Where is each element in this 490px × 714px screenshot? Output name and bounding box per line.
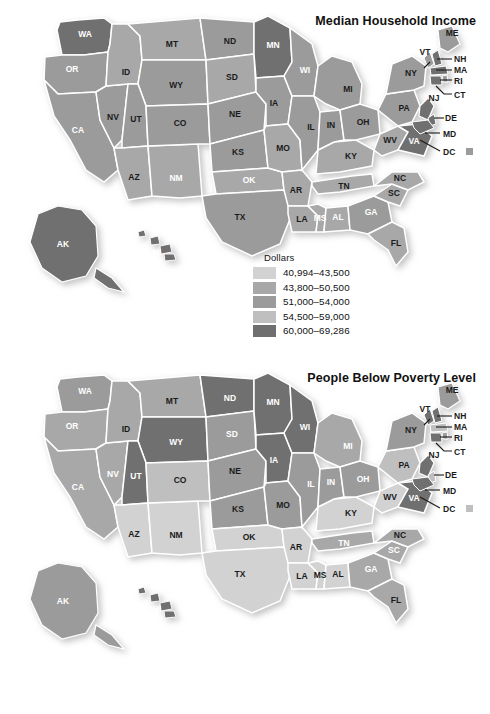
state-AK <box>30 563 124 649</box>
state-NM <box>148 144 202 198</box>
state-MI <box>314 56 362 110</box>
legend-row: 40,994–43,500 <box>253 266 350 281</box>
legend-swatch <box>253 311 276 323</box>
svg-text:MA: MA <box>454 65 467 75</box>
svg-text:DE: DE <box>445 470 457 480</box>
svg-text:MA: MA <box>454 422 467 432</box>
svg-text:NV: NV <box>107 469 119 479</box>
svg-text:AZ: AZ <box>128 529 139 539</box>
svg-text:MO: MO <box>276 143 290 153</box>
svg-text:OR: OR <box>66 64 79 74</box>
svg-text:MN: MN <box>266 40 279 50</box>
svg-text:IA: IA <box>270 98 279 108</box>
svg-text:ME: ME <box>446 385 459 395</box>
state-TX <box>202 547 292 613</box>
svg-text:SC: SC <box>388 188 400 198</box>
svg-text:FL: FL <box>391 595 401 605</box>
svg-text:SD: SD <box>226 72 238 82</box>
svg-text:HI: HI <box>153 604 162 614</box>
svg-text:WV: WV <box>383 492 397 502</box>
svg-text:VA: VA <box>408 136 419 146</box>
svg-text:OK: OK <box>243 532 257 542</box>
svg-text:NV: NV <box>107 112 119 122</box>
svg-text:DC: DC <box>443 147 455 157</box>
legend-swatch <box>253 325 276 337</box>
legend-row: 51,000–54,000 <box>253 295 350 310</box>
svg-text:NY: NY <box>405 68 417 78</box>
svg-text:NC: NC <box>394 173 406 183</box>
legend-swatch <box>253 296 276 308</box>
svg-text:NM: NM <box>169 173 182 183</box>
svg-text:AR: AR <box>290 185 302 195</box>
svg-text:KY: KY <box>345 151 357 161</box>
svg-text:IL: IL <box>307 479 315 489</box>
svg-text:IL: IL <box>307 122 315 132</box>
svg-text:CA: CA <box>72 482 84 492</box>
svg-text:WY: WY <box>169 437 183 447</box>
svg-text:OH: OH <box>357 117 370 127</box>
legend-label: 43,800–50,500 <box>283 283 350 293</box>
svg-text:VT: VT <box>420 47 432 57</box>
svg-text:WA: WA <box>78 386 92 396</box>
svg-text:AR: AR <box>290 542 302 552</box>
svg-text:SC: SC <box>388 545 400 555</box>
svg-text:CO: CO <box>174 475 187 485</box>
svg-text:HI: HI <box>153 247 162 257</box>
svg-text:PA: PA <box>398 103 409 113</box>
svg-text:WI: WI <box>300 65 310 75</box>
map-panel-people-below-poverty-level: People Below Poverty Level <box>0 357 490 714</box>
svg-text:VA: VA <box>408 493 419 503</box>
state-NM <box>148 501 202 555</box>
svg-text:CO: CO <box>174 118 187 128</box>
svg-text:NJ: NJ <box>429 450 440 460</box>
us-map-income: WA OR CA NV ID MT WY UT AZ NM CO ND SD N… <box>0 0 490 357</box>
svg-text:NH: NH <box>454 411 466 421</box>
svg-text:ID: ID <box>122 67 131 77</box>
svg-text:MN: MN <box>266 397 279 407</box>
legend-label: 60,000–69,286 <box>283 326 350 336</box>
legend-income: Dollars 40,994–43,500 43,800–50,500 51,0… <box>253 252 350 339</box>
legend-label: 51,000–54,000 <box>283 297 350 307</box>
us-map-poverty: WA OR CA NV ID MT WY UT AZ NM CO ND SD N… <box>0 357 490 714</box>
svg-text:DE: DE <box>445 113 457 123</box>
svg-text:NE: NE <box>229 109 241 119</box>
legend-label: 40,994–43,500 <box>283 268 350 278</box>
svg-text:NM: NM <box>169 530 182 540</box>
svg-text:WA: WA <box>78 29 92 39</box>
legend-label: 54,500–59,000 <box>283 312 350 322</box>
state-RI <box>442 432 448 439</box>
svg-text:ND: ND <box>224 36 236 46</box>
svg-text:GA: GA <box>365 564 378 574</box>
svg-text:WI: WI <box>300 422 310 432</box>
svg-text:LA: LA <box>296 214 307 224</box>
svg-text:IN: IN <box>327 120 336 130</box>
map-panel-median-household-income: Median Household Income <box>0 0 490 357</box>
state-MI <box>314 413 362 467</box>
svg-text:AL: AL <box>332 569 343 579</box>
svg-text:NY: NY <box>405 425 417 435</box>
legend-row: 54,500–59,000 <box>253 310 350 325</box>
svg-text:MD: MD <box>443 129 456 139</box>
svg-text:MT: MT <box>166 396 179 406</box>
svg-text:ID: ID <box>122 424 131 434</box>
svg-text:TX: TX <box>235 569 246 579</box>
svg-text:IA: IA <box>270 455 279 465</box>
svg-text:TN: TN <box>338 181 349 191</box>
state-RI <box>442 75 448 82</box>
svg-text:MT: MT <box>166 39 179 49</box>
svg-text:MO: MO <box>276 500 290 510</box>
svg-text:OK: OK <box>243 175 257 185</box>
dc-marker-income <box>466 148 473 155</box>
svg-text:NH: NH <box>454 54 466 64</box>
legend-row: 60,000–69,286 <box>253 324 350 339</box>
legend-title-income: Dollars <box>253 252 350 263</box>
svg-text:ME: ME <box>446 28 459 38</box>
svg-text:KS: KS <box>232 504 244 514</box>
svg-text:SD: SD <box>226 429 238 439</box>
svg-text:CT: CT <box>454 90 466 100</box>
svg-text:KY: KY <box>345 508 357 518</box>
legend-swatch <box>253 267 276 279</box>
svg-text:ND: ND <box>224 393 236 403</box>
svg-text:OH: OH <box>357 474 370 484</box>
svg-text:LA: LA <box>296 571 307 581</box>
